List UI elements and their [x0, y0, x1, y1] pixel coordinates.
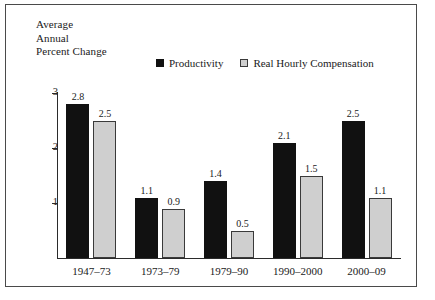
bar	[135, 198, 158, 259]
bar-value-label: 1.1	[129, 185, 164, 196]
x-axis-line	[57, 258, 401, 259]
bar-value-label: 2.1	[267, 130, 302, 141]
bar-value-label: 0.5	[225, 218, 260, 229]
bar-value-label: 0.9	[156, 196, 191, 207]
bar	[369, 198, 392, 259]
plot-area: 123 2.82.51.10.91.40.52.11.52.51.1 1947–…	[0, 0, 435, 300]
bar-value-label: 1.4	[198, 168, 233, 179]
bar-value-label: 2.5	[87, 108, 122, 119]
y-axis-tick-label: 2	[42, 141, 58, 152]
y-axis-tick-label: 1	[42, 196, 58, 207]
bar	[162, 209, 185, 259]
y-axis-line	[57, 92, 58, 259]
y-axis-tick-mark	[52, 93, 58, 94]
y-axis-tick-mark	[52, 203, 58, 204]
bar-value-label: 1.5	[294, 163, 329, 174]
bar	[66, 104, 89, 258]
bar-value-label: 2.8	[60, 91, 95, 102]
bar-value-label: 2.5	[336, 108, 371, 119]
bar-value-label: 1.1	[363, 185, 398, 196]
x-axis-category-label: 1979–90	[195, 265, 264, 277]
y-axis-tick-label: 3	[42, 86, 58, 97]
bar	[300, 176, 323, 259]
x-axis-category-label: 1990–2000	[263, 265, 332, 277]
bar	[342, 121, 365, 259]
bar	[231, 231, 254, 259]
x-axis-category-label: 1973–79	[126, 265, 195, 277]
bar	[204, 181, 227, 258]
x-axis-category-label: 1947–73	[57, 265, 126, 277]
x-axis-category-label: 2000–09	[332, 265, 401, 277]
bar	[273, 143, 296, 259]
bar	[93, 121, 116, 259]
y-axis-tick-mark	[52, 148, 58, 149]
